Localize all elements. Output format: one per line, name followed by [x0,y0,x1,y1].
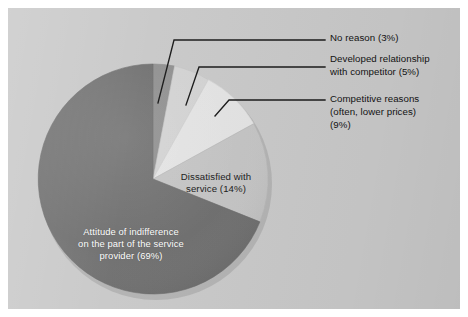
pie-label-competitive-reasons: Competitive reasons (often, lower prices… [330,93,460,132]
pie-label-dissatisfied-service: Dissatisfied with service (14%) [156,171,276,196]
pie-label-developed-relationship: Developed relationship with competitor (… [330,53,460,79]
pie-label-no-reason: No reason (3%) [330,32,460,45]
pie-label-attitude-indifference: Attitude of indifference on the part of … [38,226,224,262]
chart-screenshot: Attitude of indifference on the part of … [0,0,468,317]
chart-panel: Attitude of indifference on the part of … [8,8,460,309]
